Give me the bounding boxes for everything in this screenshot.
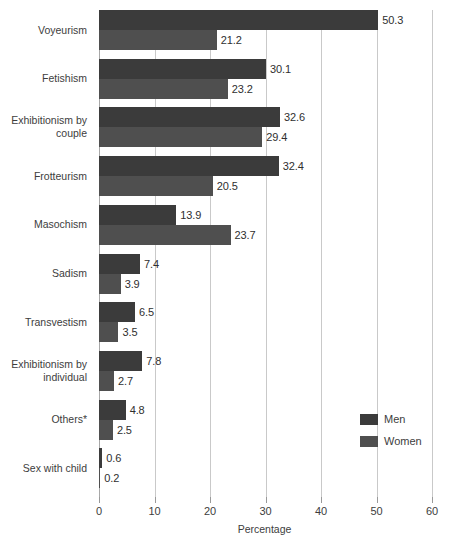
bar-men [99,156,279,176]
bar-group: 7.82.7 [99,351,432,391]
bar-value-label: 3.9 [125,274,140,294]
bar-women [99,30,217,50]
bar-value-label: 7.8 [146,351,161,371]
bar-value-label: 0.6 [106,448,121,468]
x-tick-20 [210,497,211,503]
bar-women [99,274,121,294]
x-tick-label: 40 [315,505,327,517]
bar-value-label: 32.6 [284,107,305,127]
bar-men [99,59,266,79]
x-axis-title: Percentage [0,523,463,535]
bar-group: 30.123.2 [99,59,432,99]
legend-label-women: Women [384,435,422,447]
bar-women [99,468,100,488]
gridline-60 [432,10,433,497]
grouped-bar-chart: VoyeurismFetishismExhibitionism by coupl… [0,0,463,549]
x-tick-0 [99,497,100,503]
legend-item-women: Women [360,430,422,452]
bar-value-label: 0.2 [104,468,119,488]
bar-group: 13.923.7 [99,205,432,245]
bar-group: 50.321.2 [99,10,432,50]
bar-group: 7.43.9 [99,254,432,294]
x-tick-label: 50 [370,505,382,517]
bar-value-label: 3.5 [122,322,137,342]
bar-value-label: 20.5 [217,176,238,196]
x-tick-60 [432,497,433,503]
bar-group: 6.53.5 [99,302,432,342]
bar-men [99,254,140,274]
bar-value-label: 21.2 [221,30,242,50]
bar-group: 0.60.2 [99,448,432,488]
x-tick-label: 60 [426,505,438,517]
bar-value-label: 6.5 [139,302,154,322]
bar-value-label: 13.9 [180,205,201,225]
x-tick-label: 30 [259,505,271,517]
bar-women [99,371,114,391]
x-tick-label: 10 [148,505,160,517]
category-label: Transvestism [0,302,93,342]
category-label: Others* [0,400,93,440]
bar-men [99,10,378,30]
category-label: Sadism [0,254,93,294]
bar-men [99,448,102,468]
bar-value-label: 32.4 [283,156,304,176]
bar-group: 32.420.5 [99,156,432,196]
category-label: Voyeurism [0,10,93,50]
bar-value-label: 2.5 [117,420,132,440]
x-tick-label: 0 [96,505,102,517]
bar-women [99,322,118,342]
category-label: Exhibitionism by individual [0,351,93,391]
bar-men [99,400,126,420]
bar-value-label: 7.4 [144,254,159,274]
bar-value-label: 29.4 [266,127,287,147]
legend-label-men: Men [384,413,405,425]
legend-swatch-women-icon [360,436,378,447]
bar-women [99,420,113,440]
x-tick-40 [321,497,322,503]
category-label: Fetishism [0,59,93,99]
bar-value-label: 23.2 [232,79,253,99]
x-tick-10 [155,497,156,503]
category-label: Sex with child [0,448,93,488]
category-label: Exhibitionism by couple [0,107,93,147]
bar-women [99,176,213,196]
category-label: Frotteurism [0,156,93,196]
x-tick-50 [377,497,378,503]
chart-legend: Men Women [360,408,422,452]
bar-men [99,205,176,225]
bar-women [99,127,262,147]
bar-women [99,225,231,245]
bar-men [99,302,135,322]
legend-item-men: Men [360,408,422,430]
x-axis-title-text: Percentage [238,523,292,535]
legend-swatch-men-icon [360,414,378,425]
bar-men [99,351,142,371]
category-label: Masochism [0,205,93,245]
bar-women [99,79,228,99]
category-axis-labels: VoyeurismFetishismExhibitionism by coupl… [0,10,93,497]
bar-value-label: 2.7 [118,371,133,391]
bar-value-label: 23.7 [235,225,256,245]
x-tick-label: 20 [204,505,216,517]
x-tick-30 [266,497,267,503]
bar-value-label: 4.8 [130,400,145,420]
bar-men [99,107,280,127]
bar-value-label: 30.1 [270,59,291,79]
bar-group: 32.629.4 [99,107,432,147]
bar-value-label: 50.3 [382,10,403,30]
